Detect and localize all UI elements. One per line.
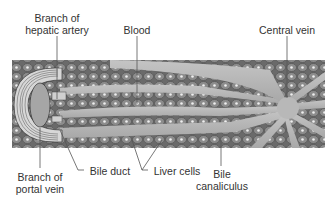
label-hepatic-artery: Branch of hepatic artery bbox=[20, 12, 94, 36]
label-bile-canaliculus: Bile canaliculus bbox=[194, 168, 250, 192]
label-blood: Blood bbox=[122, 24, 152, 36]
label-bile-duct: Bile duct bbox=[86, 165, 134, 177]
label-central-vein: Central vein bbox=[255, 24, 319, 36]
bile-duct bbox=[52, 92, 66, 100]
label-line: portal vein bbox=[8, 183, 72, 195]
label-portal-vein: Branch of portal vein bbox=[8, 171, 72, 195]
portal-vein-branch bbox=[30, 83, 50, 127]
label-line: Bile bbox=[194, 168, 250, 180]
central-vein bbox=[277, 97, 299, 119]
label-line: Branch of bbox=[8, 171, 72, 183]
label-line: canaliculus bbox=[194, 180, 250, 192]
label-line: hepatic artery bbox=[20, 24, 94, 36]
label-line: Branch of bbox=[20, 12, 94, 24]
